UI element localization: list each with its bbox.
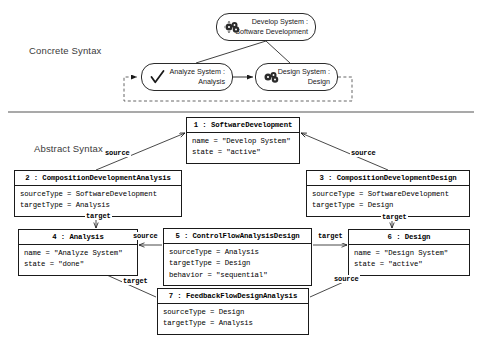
design-line-1: Design System :: [278, 67, 330, 76]
object-box-7-feedbackflowdesignanalysis[interactable]: 7 : FeedbackFlowDesignAnalysis sourceTyp…: [157, 288, 309, 335]
concrete-node-analyze-system[interactable]: Analyze System : Analysis: [141, 63, 233, 91]
object-box-1-header: 1 : SoftwareDevelopment: [187, 118, 299, 133]
object-box-1-body: name = "Develop System" state = "active": [187, 133, 299, 163]
edge-label-target-box2-box4: target: [85, 212, 112, 220]
object-box-7-attr-1: targetType = Analysis: [163, 318, 303, 329]
edge-label-source-box5-box4: source: [132, 232, 159, 240]
object-box-1-softwaredevelopment[interactable]: 1 : SoftwareDevelopment name = "Develop …: [186, 117, 300, 164]
object-box-5-body: sourceType = Analysis targetType = Desig…: [164, 244, 311, 285]
edge-label-target-box3-box6: target: [381, 213, 408, 221]
object-box-3-attr-0: sourceType = SoftwareDevelopment: [312, 189, 464, 200]
object-box-4-attr-1: state = "done": [24, 259, 132, 270]
object-box-5-attr-0: sourceType = Analysis: [169, 247, 306, 258]
object-box-6-design[interactable]: 6 : Design name = "Design System" state …: [348, 229, 470, 276]
object-box-5-header: 5 : ControlFlowAnalysisDesign: [164, 229, 311, 244]
object-box-6-header: 6 : Design: [349, 230, 469, 245]
gears-icon: [263, 71, 280, 84]
concrete-node-develop-system[interactable]: Develop System : Software Development: [216, 13, 316, 41]
object-box-7-header: 7 : FeedbackFlowDesignAnalysis: [158, 289, 308, 304]
object-box-2-attr-0: sourceType = SoftwareDevelopment: [20, 189, 176, 200]
edge-label-target-box5-box6: target: [317, 232, 344, 240]
analyze-line-1: Analyze System :: [169, 67, 225, 76]
object-box-2-header: 2 : CompositionDevelopmentAnalysis: [15, 171, 181, 186]
checkmark-icon: [150, 70, 165, 85]
edge-label-source-box3-box1: source: [350, 149, 377, 157]
edge-label-target-box7-box4: target: [122, 277, 149, 285]
object-box-2-attr-1: targetType = Analysis: [20, 200, 176, 211]
object-box-4-header: 4 : Analysis: [19, 230, 137, 245]
object-box-6-attr-0: name = "Design System": [354, 248, 464, 259]
object-box-5-attr-2: behavior = "sequential": [169, 270, 306, 281]
concrete-composition-edges: [196, 41, 290, 63]
object-box-6-body: name = "Design System" state = "active": [349, 245, 469, 275]
abstract-syntax-caption: Abstract Syntax: [34, 143, 103, 154]
object-box-3-body: sourceType = SoftwareDevelopment targetT…: [307, 186, 469, 216]
gears-icon: [224, 21, 241, 34]
object-box-6-attr-1: state = "active": [354, 259, 464, 270]
object-box-7-body: sourceType = Design targetType = Analysi…: [158, 304, 308, 334]
develop-line-1: Develop System :: [252, 17, 308, 26]
object-box-1-attr-1: state = "active": [192, 147, 294, 158]
object-box-5-controlflowanalysisdesign[interactable]: 5 : ControlFlowAnalysisDesign sourceType…: [163, 228, 312, 286]
diagram-canvas: Concrete Syntax Abstract Syntax Develop …: [0, 0, 482, 341]
object-box-5-attr-1: targetType = Design: [169, 258, 306, 269]
concrete-syntax-caption: Concrete Syntax: [29, 45, 101, 56]
edge-label-source-box7-box6: source: [333, 275, 360, 283]
concrete-node-design-system[interactable]: Design System : Design: [255, 63, 338, 91]
object-box-4-attr-0: name = "Analyze System": [24, 248, 132, 259]
object-box-3-attr-1: targetType = Design: [312, 200, 464, 211]
object-box-4-analysis[interactable]: 4 : Analysis name = "Analyze System" sta…: [18, 229, 138, 276]
object-box-7-attr-0: sourceType = Design: [163, 307, 303, 318]
object-box-3-compositiondevelopmentdesign[interactable]: 3 : CompositionDevelopmentDesign sourceT…: [306, 170, 470, 217]
object-box-2-compositiondevelopmentanalysis[interactable]: 2 : CompositionDevelopmentAnalysis sourc…: [14, 170, 182, 217]
object-box-1-attr-0: name = "Develop System": [192, 136, 294, 147]
object-box-3-header: 3 : CompositionDevelopmentDesign: [307, 171, 469, 186]
object-box-4-body: name = "Analyze System" state = "done": [19, 245, 137, 275]
edge-label-source-box2-box1: source: [104, 149, 131, 157]
